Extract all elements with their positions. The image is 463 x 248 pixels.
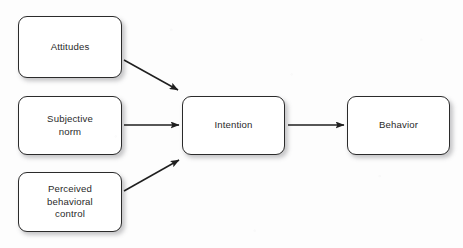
node-perceived-behavioral-control-label: Perceived behavioral control [47,183,93,221]
arrow-attitudes-to-intention [124,60,178,90]
arrow-perceived-behavioral-control-to-intention [124,160,179,191]
node-behavior-label: Behavior [379,119,418,132]
node-subjective-norm-label: Subjective norm [47,113,93,138]
diagram-canvas: Attitudes Subjective norm Perceived beha… [0,0,463,248]
node-intention: Intention [182,96,285,155]
node-subjective-norm: Subjective norm [18,96,122,155]
node-perceived-behavioral-control: Perceived behavioral control [18,172,122,232]
node-behavior: Behavior [347,96,450,155]
node-attitudes-label: Attitudes [51,41,90,54]
node-attitudes: Attitudes [18,16,122,78]
node-intention-label: Intention [214,119,252,132]
